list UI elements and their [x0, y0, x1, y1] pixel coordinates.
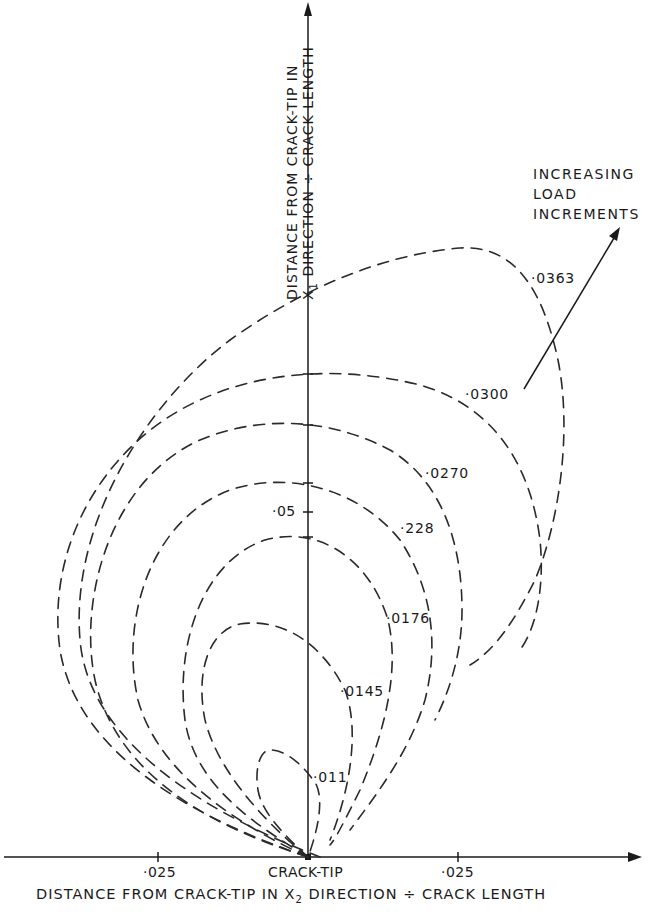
y-axis-title-line2: X1 DIRECTION ÷ CRACK LENGTH — [300, 46, 322, 300]
y-axis-arrow-icon — [304, 2, 312, 16]
annotation-arrow-line — [524, 233, 617, 389]
y-tick-label: ·05 — [272, 503, 296, 519]
contour-0300 — [58, 374, 541, 857]
contour-label-0270: ·0270 — [425, 465, 469, 481]
contour-label-0145: ·0145 — [340, 683, 384, 699]
y-axis-title-line2-pre: X — [300, 289, 316, 300]
contour-0270 — [91, 423, 462, 857]
x-tick-label-right: ·025 — [441, 864, 474, 880]
y-axis-title: DISTANCE FROM CRACK-TIP IN X1 DIRECTION … — [284, 46, 322, 300]
y-axis-title-line2-post: DIRECTION ÷ CRACK LENGTH — [300, 46, 316, 282]
y-axis-title-line2-sub: 1 — [308, 282, 319, 289]
y-axis-title-line1: DISTANCE FROM CRACK-TIP IN — [284, 46, 300, 300]
x-axis-title: DISTANCE FROM CRACK-TIP IN X2 DIRECTION … — [36, 886, 546, 905]
contour-label-228: ·228 — [400, 520, 434, 536]
annotation-line-3: INCREMENTS — [533, 204, 640, 224]
annotation-line-2: LOAD — [533, 184, 640, 204]
contour-0363 — [79, 248, 564, 857]
contour-label-0363: ·0363 — [531, 270, 575, 286]
x-origin-label: CRACK-TIP — [268, 864, 343, 880]
annotation-arrowhead-icon — [609, 227, 620, 241]
x-axis-title-sub: 2 — [295, 894, 302, 905]
increasing-load-annotation: INCREASING LOAD INCREMENTS — [533, 164, 640, 224]
x-axis-arrow-icon — [628, 852, 642, 862]
contour-0145 — [202, 623, 352, 857]
contour-label-0176: ·0176 — [386, 610, 430, 626]
contour-228 — [133, 482, 432, 857]
contour-label-0300: ·0300 — [465, 386, 509, 402]
x-axis-title-post: DIRECTION ÷ CRACK LENGTH — [303, 886, 546, 902]
x-tick-label-left: ·025 — [143, 864, 176, 880]
annotation-line-1: INCREASING — [533, 164, 640, 184]
x-axis-title-pre: DISTANCE FROM CRACK-TIP IN X — [36, 886, 295, 902]
contour-label-011: ·011 — [313, 769, 347, 785]
